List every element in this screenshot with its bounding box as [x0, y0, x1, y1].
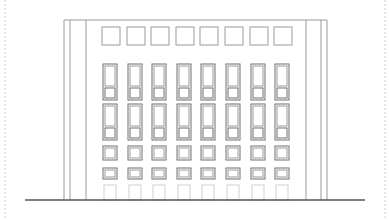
window-upper-pane [179, 66, 189, 86]
window-pane [154, 148, 164, 158]
window-pane [105, 148, 115, 158]
top-square-window [151, 27, 169, 45]
window-upper-pane [277, 106, 287, 126]
window-upper-pane [105, 66, 115, 86]
window-pane [228, 148, 238, 158]
window-lower-pane [203, 128, 213, 138]
window-upper-pane [154, 66, 164, 86]
window-upper-pane [154, 106, 164, 126]
door-opening [227, 185, 239, 200]
window-pane [253, 170, 263, 177]
window-lower-pane [130, 128, 140, 138]
door-opening [129, 185, 141, 200]
window-pane [130, 148, 140, 158]
top-square-window [225, 27, 243, 45]
building-elevation-drawing [0, 0, 389, 220]
top-square-window [200, 27, 218, 45]
window-lower-pane [203, 88, 213, 98]
window-pane [179, 170, 189, 177]
window-pane [228, 170, 238, 177]
window-lower-pane [179, 88, 189, 98]
door-opening [202, 185, 214, 200]
window-lower-pane [228, 88, 238, 98]
door-opening [276, 185, 288, 200]
window-lower-pane [105, 128, 115, 138]
window-lower-pane [179, 128, 189, 138]
window-pane [179, 148, 189, 158]
window-upper-pane [228, 106, 238, 126]
window-pane [253, 148, 263, 158]
window-pane [277, 170, 287, 177]
door-opening [178, 185, 190, 200]
window-pane [130, 170, 140, 177]
window-lower-pane [277, 88, 287, 98]
window-upper-pane [253, 106, 263, 126]
window-upper-pane [130, 106, 140, 126]
top-square-window [127, 27, 145, 45]
window-lower-pane [130, 88, 140, 98]
window-lower-pane [253, 88, 263, 98]
top-square-window [102, 27, 120, 45]
window-pane [105, 170, 115, 177]
window-upper-pane [253, 66, 263, 86]
window-upper-pane [179, 106, 189, 126]
top-square-window [176, 27, 194, 45]
window-upper-pane [228, 66, 238, 86]
window-lower-pane [154, 128, 164, 138]
door-opening [153, 185, 165, 200]
window-upper-pane [130, 66, 140, 86]
window-upper-pane [203, 66, 213, 86]
window-pane [203, 170, 213, 177]
door-opening [104, 185, 116, 200]
window-lower-pane [105, 88, 115, 98]
window-upper-pane [277, 66, 287, 86]
window-upper-pane [105, 106, 115, 126]
window-pane [203, 148, 213, 158]
window-lower-pane [277, 128, 287, 138]
top-square-window [250, 27, 268, 45]
window-pane [154, 170, 164, 177]
window-lower-pane [154, 88, 164, 98]
window-upper-pane [203, 106, 213, 126]
door-opening [252, 185, 264, 200]
window-lower-pane [253, 128, 263, 138]
top-square-window [274, 27, 292, 45]
window-pane [277, 148, 287, 158]
window-lower-pane [228, 128, 238, 138]
